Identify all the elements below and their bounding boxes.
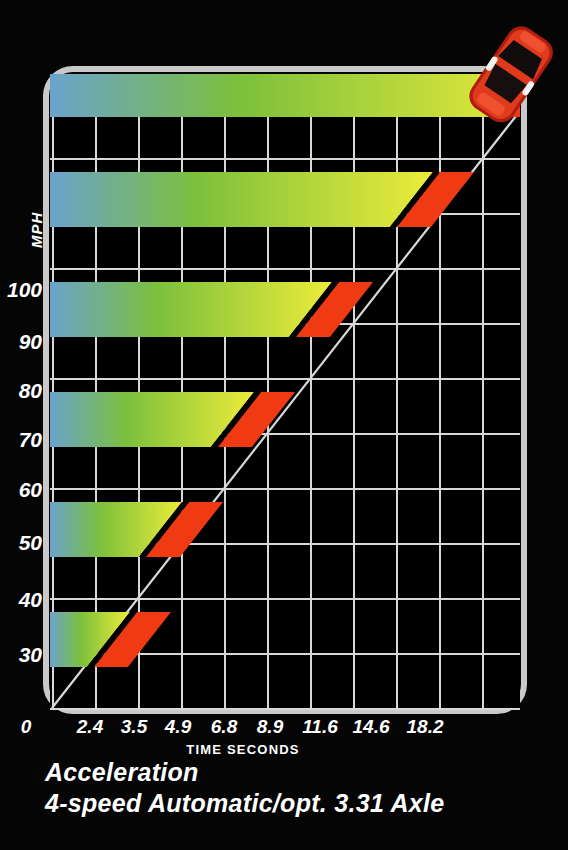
data-band — [50, 172, 480, 173]
y-axis-tick-label: 80 — [0, 379, 42, 403]
x-axis-tick-label: 14.6 — [345, 716, 397, 738]
data-band — [50, 502, 229, 503]
x-axis-tick-label: 18.2 — [399, 716, 451, 738]
acceleration-chart-poster: MPH 10090807060504030 02.43.54.96.88.911… — [0, 0, 568, 850]
y-axis-tick-label: 60 — [0, 478, 42, 502]
caption-block: Acceleration 4-speed Automatic/opt. 3.31… — [45, 757, 565, 819]
caption-subtitle: 4-speed Automatic/opt. 3.31 Axle — [45, 788, 565, 819]
y-axis-tick-label: 30 — [0, 643, 42, 667]
data-band — [50, 612, 177, 613]
x-axis-tick-label: 4.9 — [152, 716, 204, 738]
x-axis-origin-label: 0 — [14, 716, 38, 738]
y-axis-title: MPH — [28, 212, 45, 248]
plot-area — [50, 74, 520, 710]
x-axis-tick-label: 11.6 — [294, 716, 346, 738]
data-band — [50, 392, 301, 393]
y-axis-tick-label: 50 — [0, 531, 42, 555]
y-axis-tick-label: 40 — [0, 588, 42, 612]
x-axis-tick-label: 6.8 — [198, 716, 250, 738]
x-axis-title: TIME SECONDS — [186, 742, 299, 757]
data-band — [50, 282, 379, 283]
y-axis-tick-label: 70 — [0, 428, 42, 452]
sports-car-icon — [455, 16, 565, 136]
caption-title: Acceleration — [45, 757, 565, 788]
y-axis-tick-label: 90 — [0, 330, 42, 354]
y-axis-tick-label: 100 — [0, 278, 42, 302]
x-axis-tick-label: 8.9 — [244, 716, 296, 738]
